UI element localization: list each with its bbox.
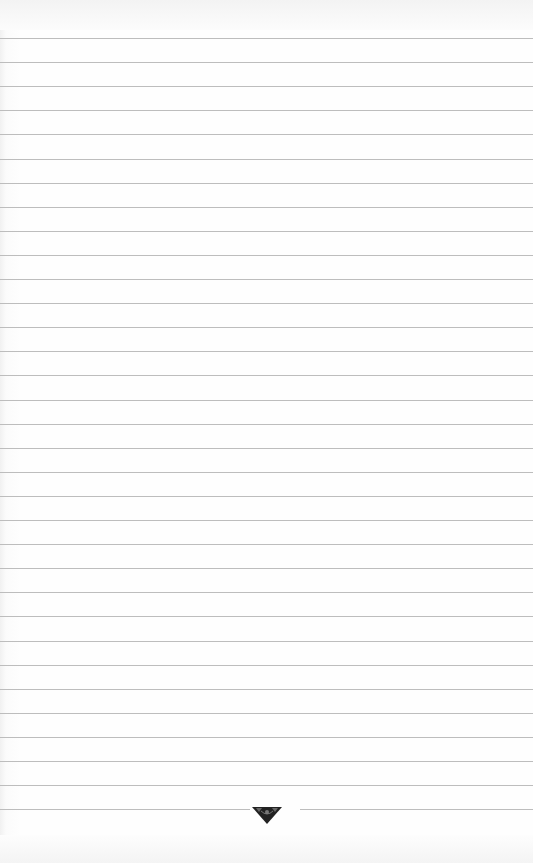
ruled-line xyxy=(0,641,533,642)
ruled-line xyxy=(0,183,533,184)
ruled-line xyxy=(0,375,533,376)
ruled-line xyxy=(0,568,533,569)
ruled-line xyxy=(0,231,533,232)
page-top-margin xyxy=(0,0,533,30)
ruled-line xyxy=(0,110,533,111)
ruled-line xyxy=(0,207,533,208)
inverted-triangle-ornament-icon xyxy=(252,806,282,824)
ruled-page xyxy=(0,0,533,863)
ruled-line xyxy=(0,327,533,328)
ruled-line xyxy=(0,86,533,87)
ruled-line xyxy=(0,713,533,714)
page-bottom-margin xyxy=(0,835,533,863)
ruled-line xyxy=(0,689,533,690)
ruled-line xyxy=(0,303,533,304)
ruled-line xyxy=(0,400,533,401)
ruled-line xyxy=(0,62,533,63)
ruled-line xyxy=(0,616,533,617)
ruled-line xyxy=(0,472,533,473)
ruled-line xyxy=(0,665,533,666)
ruled-line xyxy=(0,544,533,545)
ruled-line xyxy=(0,809,250,810)
ruled-line xyxy=(0,134,533,135)
ruled-line xyxy=(0,520,533,521)
ruled-line xyxy=(0,592,533,593)
ruled-line xyxy=(0,496,533,497)
ruled-line xyxy=(300,809,533,810)
ruled-line xyxy=(0,159,533,160)
ruled-line xyxy=(0,38,533,39)
ruled-line xyxy=(0,448,533,449)
ruled-line xyxy=(0,351,533,352)
ruled-line xyxy=(0,737,533,738)
ruled-line xyxy=(0,785,533,786)
ruled-line xyxy=(0,279,533,280)
ruled-line xyxy=(0,424,533,425)
ruled-line xyxy=(0,761,533,762)
ruled-line xyxy=(0,255,533,256)
